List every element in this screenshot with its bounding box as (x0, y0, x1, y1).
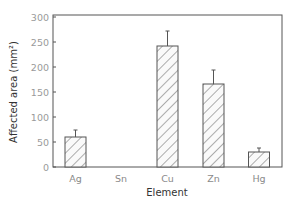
bar-hg (249, 152, 270, 167)
y-tick-label: 250 (31, 37, 49, 48)
y-axis-title: Affected area (mm²) (8, 41, 19, 143)
x-axis-title: Element (146, 187, 187, 198)
y-axis-ticks: 050100150200250300 (31, 12, 56, 173)
x-category-label-sn: Sn (115, 173, 127, 184)
y-tick-label: 200 (31, 62, 49, 73)
bars (65, 31, 270, 167)
y-tick-label: 50 (37, 137, 49, 148)
y-tick-label: 150 (31, 87, 49, 98)
y-tick-label: 300 (31, 12, 49, 23)
x-category-label-cu: Cu (161, 173, 174, 184)
bar-cu (157, 46, 178, 167)
x-category-label-zn: Zn (207, 173, 220, 184)
bar-chart: 050100150200250300 AgSnCuZnHg Element Af… (0, 0, 297, 202)
bar-zn (203, 84, 224, 167)
bar-ag (65, 137, 86, 167)
x-axis-category-labels: AgSnCuZnHg (69, 173, 265, 184)
x-category-label-ag: Ag (69, 173, 82, 184)
y-tick-label: 0 (43, 162, 49, 173)
y-tick-label: 100 (31, 112, 49, 123)
x-category-label-hg: Hg (252, 173, 265, 184)
